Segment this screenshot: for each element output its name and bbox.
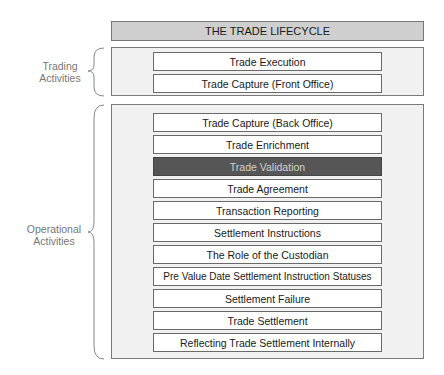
step-trade-validation: Trade Validation bbox=[153, 157, 382, 176]
diagram-title: THE TRADE LIFECYCLE bbox=[111, 21, 424, 41]
step-trade-settlement: Trade Settlement bbox=[153, 311, 382, 330]
step-role-of-custodian: The Role of the Custodian bbox=[153, 245, 382, 264]
label-line: Trading bbox=[30, 60, 90, 72]
trading-activities-label: Trading Activities bbox=[30, 60, 90, 84]
step-trade-agreement: Trade Agreement bbox=[153, 179, 382, 198]
label-line: Activities bbox=[30, 72, 90, 84]
step-transaction-reporting: Transaction Reporting bbox=[153, 201, 382, 220]
step-reflecting-settlement-internally: Reflecting Trade Settlement Internally bbox=[153, 333, 382, 352]
step-trade-capture-back-office: Trade Capture (Back Office) bbox=[153, 113, 382, 132]
step-trade-enrichment: Trade Enrichment bbox=[153, 135, 382, 154]
label-line: Operational bbox=[18, 223, 90, 235]
step-trade-capture-front-office: Trade Capture (Front Office) bbox=[153, 74, 382, 93]
label-line: Activities bbox=[18, 235, 90, 247]
operational-activities-label: Operational Activities bbox=[18, 223, 90, 247]
step-settlement-failure: Settlement Failure bbox=[153, 289, 382, 308]
brace-icon bbox=[88, 47, 108, 97]
step-settlement-instructions: Settlement Instructions bbox=[153, 223, 382, 242]
brace-icon bbox=[88, 104, 108, 360]
step-pre-value-date-statuses: Pre Value Date Settlement Instruction St… bbox=[153, 267, 382, 286]
step-trade-execution: Trade Execution bbox=[153, 52, 382, 71]
